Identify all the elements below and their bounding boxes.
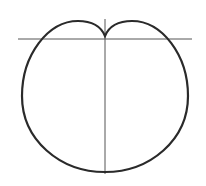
cardioid-diagram: [0, 0, 206, 186]
